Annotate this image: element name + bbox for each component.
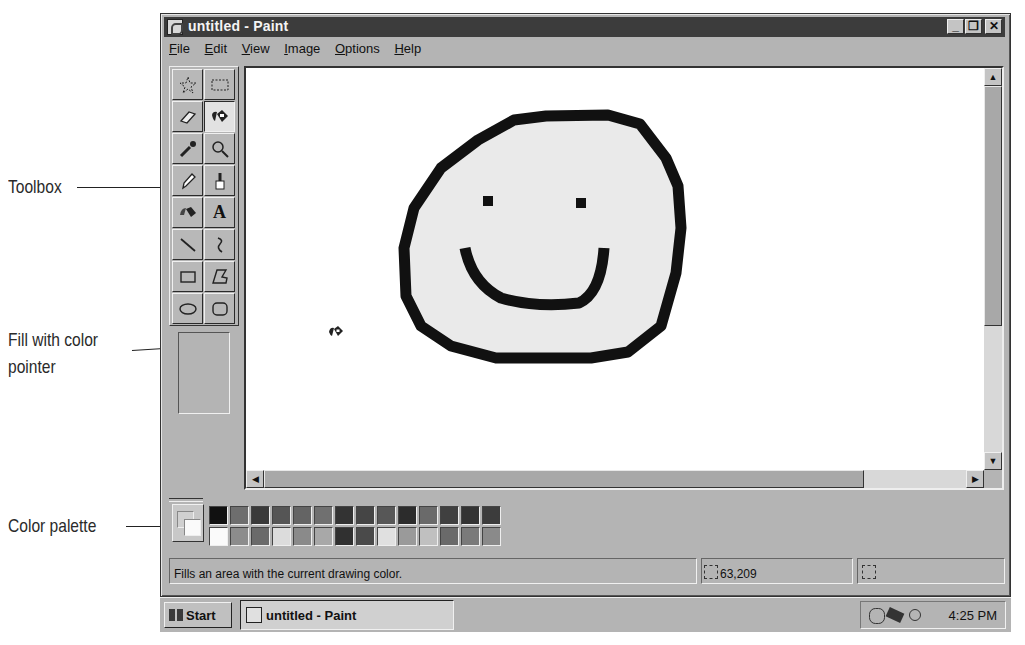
palette-separator	[169, 498, 203, 502]
color-swatch[interactable]	[335, 527, 354, 546]
color-swatch[interactable]	[251, 527, 270, 546]
vertical-scrollbar[interactable]: ▲ ▼	[984, 68, 1002, 470]
tool-pencil[interactable]	[172, 165, 203, 196]
menu-bar: File Edit View Image Options Help	[169, 41, 432, 59]
callout-color-palette: Color palette	[8, 514, 96, 538]
callout-line-toolbox	[77, 187, 169, 188]
menu-image[interactable]: Image	[284, 41, 320, 56]
paint-app-icon[interactable]	[167, 19, 183, 35]
tool-airbrush[interactable]	[172, 197, 203, 228]
pencil-icon	[178, 171, 198, 191]
ellipse-icon	[178, 299, 198, 319]
tool-options-box[interactable]	[178, 332, 230, 414]
menu-file[interactable]: File	[169, 41, 190, 56]
scroll-right-button[interactable]: ▶	[966, 470, 984, 488]
title-bar[interactable]: untitled - Paint _ ❐ ✕	[164, 17, 1005, 37]
tool-pick-color[interactable]	[172, 133, 203, 164]
callout-fill-pointer-line1: Fill with color	[8, 328, 98, 352]
taskbar: Start untitled - Paint 4:25 PM	[160, 597, 1011, 632]
tool-polygon[interactable]	[204, 261, 235, 292]
vertical-scroll-thumb[interactable]	[984, 86, 1002, 326]
menu-view[interactable]: View	[242, 41, 270, 56]
rect-select-icon	[210, 75, 230, 95]
status-selection-size	[857, 558, 1005, 584]
color-swatch[interactable]	[272, 527, 291, 546]
horizontal-scroll-thumb[interactable]	[264, 470, 864, 488]
rectangle-icon	[178, 267, 198, 287]
cursor-position-icon	[704, 565, 718, 579]
scroll-down-button[interactable]: ▼	[984, 452, 1002, 470]
start-button[interactable]: Start	[164, 602, 232, 628]
color-swatch[interactable]	[314, 506, 333, 525]
color-swatch[interactable]	[377, 506, 396, 525]
system-tray: 4:25 PM	[860, 601, 1006, 629]
color-swatch[interactable]	[230, 506, 249, 525]
color-swatch[interactable]	[377, 527, 396, 546]
color-swatch[interactable]	[251, 506, 270, 525]
color-swatch[interactable]	[230, 527, 249, 546]
tool-magnifier[interactable]	[204, 133, 235, 164]
drawing-canvas[interactable]	[246, 68, 984, 470]
tool-line[interactable]	[172, 229, 203, 260]
color-swatch[interactable]	[272, 506, 291, 525]
airbrush-icon	[178, 203, 198, 223]
tool-text[interactable]: A	[204, 197, 235, 228]
tool-free-form-select[interactable]	[172, 69, 203, 100]
tool-brush[interactable]	[204, 165, 235, 196]
color-swatch[interactable]	[398, 506, 417, 525]
color-swatch[interactable]	[209, 506, 228, 525]
tool-rectangle[interactable]	[172, 261, 203, 292]
color-palette	[169, 498, 999, 548]
curve-icon	[210, 235, 230, 255]
selection-size-icon	[862, 565, 876, 579]
color-swatch[interactable]	[398, 527, 417, 546]
color-swatch[interactable]	[482, 527, 501, 546]
color-swatch[interactable]	[482, 506, 501, 525]
line-icon	[178, 235, 198, 255]
scroll-up-button[interactable]: ▲	[984, 68, 1002, 86]
restore-button[interactable]: ❐	[965, 19, 982, 34]
color-swatch[interactable]	[293, 527, 312, 546]
horizontal-scrollbar[interactable]: ◀ ▶	[246, 470, 984, 488]
color-swatch[interactable]	[461, 527, 480, 546]
tray-network-icon[interactable]	[869, 608, 885, 624]
color-swatch[interactable]	[335, 506, 354, 525]
rounded-rect-icon	[210, 299, 230, 319]
tool-ellipse[interactable]	[172, 293, 203, 324]
menu-options[interactable]: Options	[335, 41, 380, 56]
color-swatch[interactable]	[440, 506, 459, 525]
background-color	[184, 519, 201, 536]
paint-bucket-icon	[210, 107, 230, 127]
tool-curve[interactable]	[204, 229, 235, 260]
close-button[interactable]: ✕	[985, 19, 1002, 34]
window-title: untitled - Paint	[188, 18, 288, 34]
tool-select[interactable]	[204, 69, 235, 100]
menu-edit[interactable]: Edit	[205, 41, 227, 56]
toolbox: A	[169, 66, 239, 326]
color-swatch[interactable]	[440, 527, 459, 546]
color-swatch[interactable]	[356, 506, 375, 525]
fill-cursor-icon	[329, 326, 343, 336]
menu-help[interactable]: Help	[394, 41, 421, 56]
color-swatch[interactable]	[461, 506, 480, 525]
taskbar-paint-button[interactable]: untitled - Paint	[240, 600, 454, 630]
tray-search-icon[interactable]	[909, 609, 921, 621]
magnifier-icon	[210, 139, 230, 159]
color-swatch[interactable]	[356, 527, 375, 546]
scroll-left-button[interactable]: ◀	[246, 470, 264, 488]
tool-rounded-rectangle[interactable]	[204, 293, 235, 324]
color-swatch[interactable]	[209, 527, 228, 546]
minimize-button[interactable]: _	[947, 19, 964, 34]
color-swatch[interactable]	[419, 506, 438, 525]
status-coordinates: 63,209	[701, 558, 853, 584]
tray-scheduler-icon[interactable]	[886, 607, 905, 623]
callout-toolbox: Toolbox	[8, 175, 62, 199]
tool-eraser[interactable]	[172, 101, 203, 132]
tool-fill-with-color[interactable]	[204, 101, 235, 132]
taskbar-clock[interactable]: 4:25 PM	[949, 608, 997, 623]
color-swatch[interactable]	[419, 527, 438, 546]
color-swatch[interactable]	[314, 527, 333, 546]
color-swatch[interactable]	[293, 506, 312, 525]
canvas-frame: ▲ ▼ ◀ ▶	[244, 66, 1004, 490]
scroll-corner	[984, 470, 1002, 488]
